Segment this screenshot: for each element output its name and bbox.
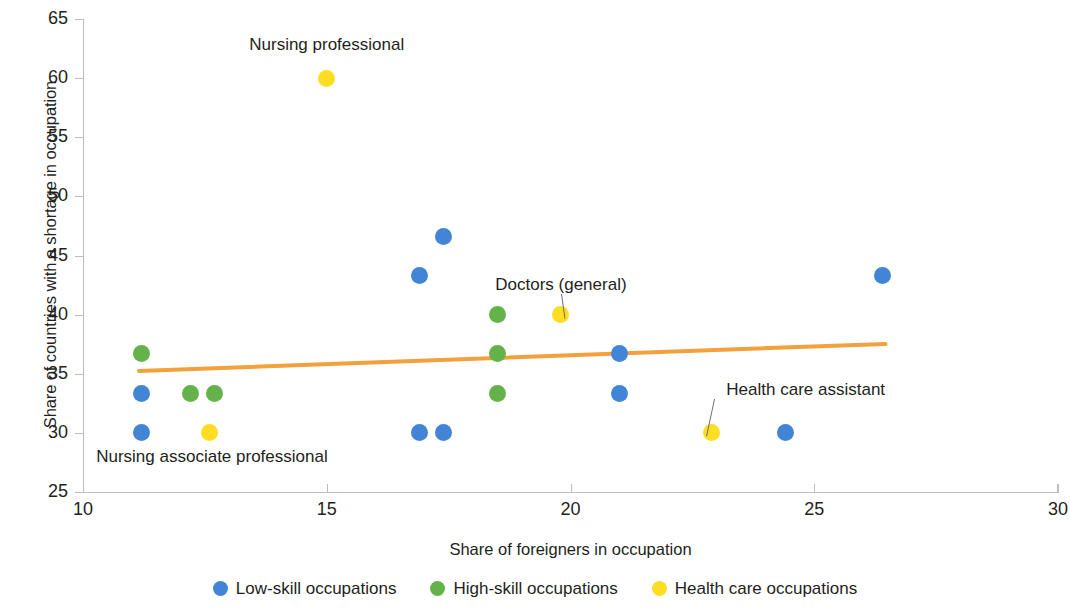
x-axis-title: Share of foreigners in occupation [83, 540, 1058, 559]
point-annotation: Health care assistant [726, 381, 885, 398]
y-tick-mark [75, 433, 83, 434]
y-tick-mark [75, 137, 83, 138]
legend-item-label: Low-skill occupations [236, 580, 397, 597]
data-point [318, 70, 335, 87]
y-tick-mark [75, 196, 83, 197]
legend-swatch-icon [430, 581, 445, 596]
point-annotation: Nursing professional [249, 36, 404, 53]
data-point [489, 306, 506, 323]
data-point [611, 385, 628, 402]
point-annotation: Doctors (general) [495, 276, 626, 293]
legend-item[interactable]: High-skill occupations [430, 580, 617, 597]
data-point [133, 345, 150, 362]
y-tick-label: 55 [8, 127, 68, 145]
chart-legend: Low-skill occupationsHigh-skill occupati… [0, 580, 1070, 597]
y-tick-label: 40 [8, 305, 68, 323]
x-tick-label: 25 [784, 500, 844, 518]
x-tick-label: 20 [541, 500, 601, 518]
y-tick-mark [75, 19, 83, 20]
x-tick-mark [1058, 484, 1059, 493]
data-point [182, 385, 199, 402]
plot-area [83, 19, 1058, 492]
y-tick-mark [75, 78, 83, 79]
point-annotation: Nursing associate professional [96, 448, 328, 465]
legend-swatch-icon [652, 581, 667, 596]
data-point [611, 345, 628, 362]
y-tick-mark [75, 492, 83, 493]
y-tick-label: 50 [8, 186, 68, 204]
y-tick-label: 25 [8, 482, 68, 500]
legend-swatch-icon [213, 581, 228, 596]
data-point [777, 424, 794, 441]
y-tick-label: 65 [8, 9, 68, 27]
legend-item[interactable]: Health care occupations [652, 580, 857, 597]
data-point [489, 345, 506, 362]
data-point [874, 267, 891, 284]
y-tick-label: 60 [8, 68, 68, 86]
x-tick-label: 30 [1028, 500, 1070, 518]
legend-item[interactable]: Low-skill occupations [213, 580, 397, 597]
y-tick-label: 45 [8, 246, 68, 264]
legend-item-label: High-skill occupations [453, 580, 617, 597]
y-tick-label: 35 [8, 364, 68, 382]
scatter-chart: Share of countries with a shortage in oc… [0, 0, 1070, 609]
y-tick-label: 30 [8, 423, 68, 441]
y-tick-mark [75, 256, 83, 257]
legend-item-label: Health care occupations [675, 580, 857, 597]
data-point [411, 267, 428, 284]
y-tick-mark [75, 374, 83, 375]
y-tick-mark [75, 315, 83, 316]
x-tick-label: 15 [297, 500, 357, 518]
x-tick-label: 10 [53, 500, 113, 518]
